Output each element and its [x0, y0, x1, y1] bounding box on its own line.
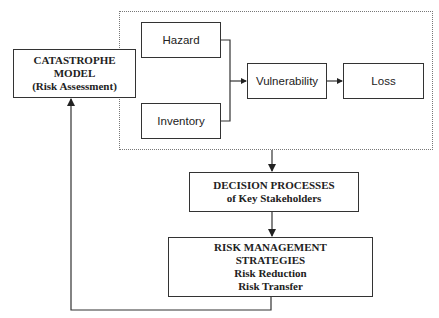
risk-management-title-2: STRATEGIES: [236, 254, 306, 267]
vulnerability-box: Vulnerability: [247, 63, 327, 99]
catastrophe-model-subtitle: (Risk Assessment): [32, 80, 117, 93]
loss-box: Loss: [343, 63, 424, 99]
catastrophe-model-title: CATASTROPHE: [33, 54, 115, 67]
hazard-box: Hazard: [141, 22, 221, 58]
risk-transfer-label: Risk Transfer: [238, 280, 303, 293]
decision-title: DECISION PROCESSES: [213, 179, 334, 192]
hazard-label: Hazard: [162, 34, 199, 46]
decision-subtitle: of Key Stakeholders: [227, 192, 322, 205]
risk-management-box: RISK MANAGEMENT STRATEGIES Risk Reductio…: [168, 237, 373, 297]
catastrophe-model-box: CATASTROPHE MODEL (Risk Assessment): [13, 49, 136, 98]
risk-management-title: RISK MANAGEMENT: [214, 241, 327, 254]
risk-reduction-label: Risk Reduction: [234, 267, 306, 280]
decision-processes-box: DECISION PROCESSES of Key Stakeholders: [189, 172, 359, 212]
inventory-box: Inventory: [141, 103, 221, 139]
loss-label: Loss: [371, 75, 395, 87]
catastrophe-model-title-2: MODEL: [54, 67, 96, 80]
vulnerability-label: Vulnerability: [256, 75, 318, 87]
inventory-label: Inventory: [157, 115, 204, 127]
